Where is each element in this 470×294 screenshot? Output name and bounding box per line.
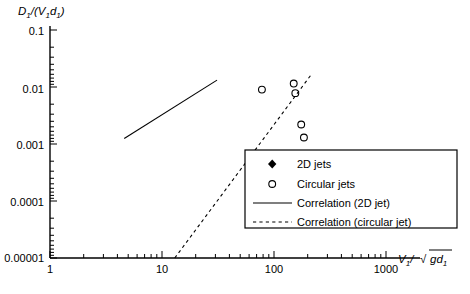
y-axis-title: D1/(V1d1) [18,5,65,20]
x-title-radicand: gd [430,253,443,265]
x-tick-label-2: 100 [265,263,283,275]
series-2d-jets [149,1,208,136]
y-tick-label-2: 0.001 [16,139,44,151]
x-tick-label-1: 10 [156,263,168,275]
svg-text:D1/(V1d1): D1/(V1d1) [18,5,65,20]
y-title-D: D [18,5,26,17]
data-point-circular-jet [298,121,305,128]
legend-label-correlation-2d: Correlation (2D jet) [297,197,390,209]
x-axis-title: V1/ √ gd1 [398,250,452,268]
data-point-circular-jet [259,86,266,93]
x-tick-label-0: 1 [47,263,53,275]
y-axis-ticks [50,30,57,258]
y-tick-label-0: 0.1 [29,25,44,37]
x-axis-ticks [50,251,386,258]
x-title-sqrt-glyph: √ [420,253,427,265]
scatter-chart: 0.1 0.01 0.001 0.0001 0.00001 1 10 100 1… [0,0,470,294]
figure-container: 0.1 0.01 0.001 0.0001 0.00001 1 10 100 1… [0,0,470,294]
correlation-line-2d-jet [124,80,217,138]
y-tick-label-1: 0.01 [23,83,44,95]
x-tick-label-3: 1000 [374,263,398,275]
y-tick-label-3: 0.0001 [10,196,44,208]
x-title-div: / [409,253,415,265]
svg-text:gd1: gd1 [430,253,447,268]
y-tick-label-4: 0.00001 [4,252,44,264]
legend-label-correlation-circular: Correlation (circular jet) [297,216,411,228]
legend-label-circular-jets: Circular jets [297,178,356,190]
x-title-sub2: 1 [443,259,447,268]
data-point-circular-jet [301,134,308,141]
y-title-mid: /(V [30,5,47,17]
legend: 2D jets Circular jets Correlation (2D je… [245,150,457,228]
svg-text:V1/: V1/ [398,253,415,268]
data-point-circular-jet [290,80,297,87]
legend-label-2d-jets: 2D jets [297,158,332,170]
